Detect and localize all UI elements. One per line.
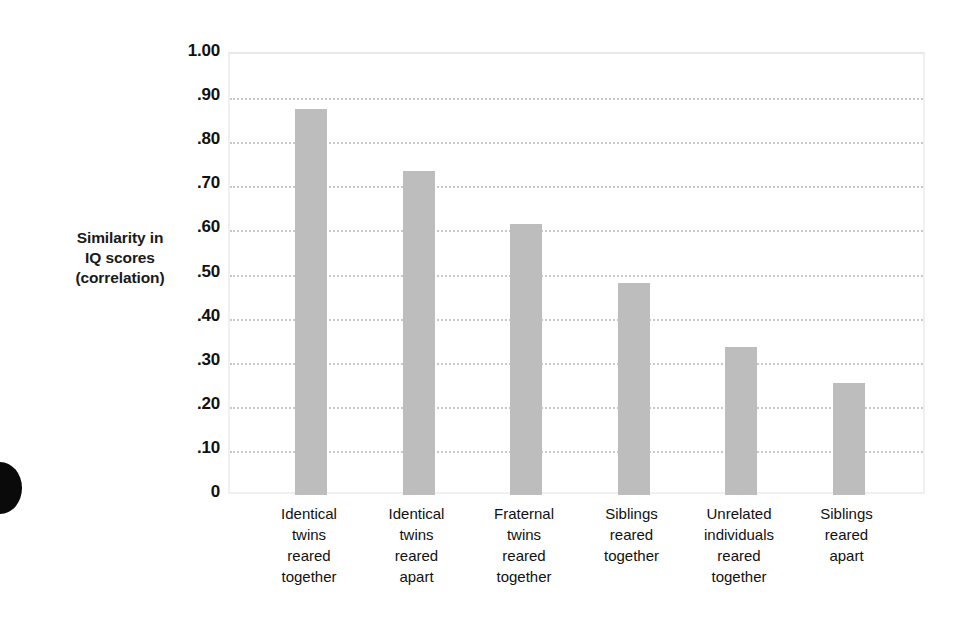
gridline <box>230 451 923 453</box>
x-category-label: Siblingsrearedtogether <box>573 503 691 566</box>
x-category-label-line: reared <box>250 545 368 566</box>
bar <box>403 171 435 495</box>
x-category-label-line: individuals <box>680 524 798 545</box>
gridline <box>230 407 923 409</box>
plot-area <box>228 52 925 494</box>
x-category-label-line: twins <box>358 524 476 545</box>
x-category-label-line: reared <box>680 545 798 566</box>
gridline <box>230 275 923 277</box>
gridline <box>230 98 923 100</box>
bar <box>833 383 865 495</box>
x-category-label-line: reared <box>573 524 691 545</box>
x-category-label-line: together <box>465 566 583 587</box>
gridline <box>230 142 923 144</box>
x-category-label: Siblingsrearedapart <box>788 503 906 566</box>
x-category-label-line: Identical <box>250 503 368 524</box>
x-category-label-line: twins <box>465 524 583 545</box>
x-category-label: Identicaltwinsrearedapart <box>358 503 476 587</box>
bar <box>725 347 757 495</box>
x-category-label-line: Identical <box>358 503 476 524</box>
y-tick-label: .60 <box>158 217 220 237</box>
y-tick-label: 0 <box>158 482 220 502</box>
gridline <box>230 230 923 232</box>
y-tick-label: .90 <box>158 85 220 105</box>
y-tick-label: .20 <box>158 394 220 414</box>
x-category-label-line: Unrelated <box>680 503 798 524</box>
y-tick-label: .50 <box>158 262 220 282</box>
x-category-label-line: reared <box>788 524 906 545</box>
bar <box>295 109 327 495</box>
gridline <box>230 319 923 321</box>
x-category-label-line: together <box>573 545 691 566</box>
x-category-label-line: twins <box>250 524 368 545</box>
x-category-label-line: Fraternal <box>465 503 583 524</box>
y-tick-label: .80 <box>158 129 220 149</box>
bar <box>510 224 542 495</box>
y-tick-label: .40 <box>158 306 220 326</box>
x-category-label-line: apart <box>788 545 906 566</box>
x-category-label-line: Siblings <box>573 503 691 524</box>
gridline <box>230 363 923 365</box>
page-edge-artifact <box>0 462 22 514</box>
x-category-label-line: together <box>680 566 798 587</box>
x-category-label: Unrelatedindividualsrearedtogether <box>680 503 798 587</box>
y-tick-label: 1.00 <box>158 41 220 61</box>
gridline <box>230 186 923 188</box>
x-category-label-line: reared <box>358 545 476 566</box>
x-category-label-line: apart <box>358 566 476 587</box>
y-tick-label: .30 <box>158 350 220 370</box>
y-tick-label: .70 <box>158 173 220 193</box>
x-category-label: Fraternaltwinsrearedtogether <box>465 503 583 587</box>
x-category-label-line: reared <box>465 545 583 566</box>
y-tick-label: .10 <box>158 438 220 458</box>
x-category-label-line: Siblings <box>788 503 906 524</box>
x-category-label: Identicaltwinsrearedtogether <box>250 503 368 587</box>
iq-similarity-bar-chart-figure: Similarity in IQ scores (correlation) 1.… <box>0 0 964 625</box>
bar <box>618 283 650 495</box>
x-category-label-line: together <box>250 566 368 587</box>
